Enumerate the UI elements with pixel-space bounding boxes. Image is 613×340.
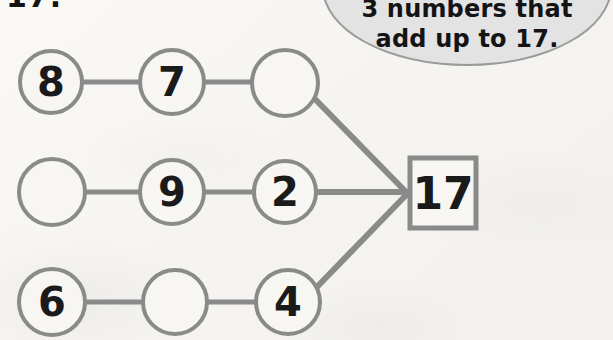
chain-row-1: 9 2 (19, 159, 316, 225)
node-circle-r0c2[interactable] (252, 50, 318, 116)
node-value-r1c1: 9 (158, 169, 186, 215)
number-chain-diagram: 8 7 9 2 (0, 0, 613, 340)
node-r0c0[interactable]: 8 (20, 51, 82, 113)
connector-lines (82, 82, 409, 302)
node-r0c1[interactable]: 7 (140, 50, 204, 114)
node-value-r2c2: 4 (274, 279, 302, 325)
node-r1c2[interactable]: 2 (254, 161, 316, 223)
connector-r0-to-target (313, 97, 409, 195)
target-sum-box[interactable]: 17 (410, 158, 476, 228)
node-r2c1[interactable] (143, 270, 207, 334)
chain-row-0: 8 7 (20, 50, 318, 116)
node-r2c2[interactable]: 4 (256, 270, 320, 334)
node-r0c2[interactable] (252, 50, 318, 116)
node-circle-r2c1[interactable] (143, 270, 207, 334)
node-r1c0[interactable] (19, 159, 85, 225)
node-value-r1c2: 2 (271, 169, 299, 215)
chain-row-2: 6 4 (19, 269, 320, 335)
node-r2c0[interactable]: 6 (19, 269, 85, 335)
node-r1c1[interactable]: 9 (140, 160, 204, 224)
target-box-value: 17 (412, 168, 473, 219)
worksheet-page: 17. 3 numbers that add up to 17. (0, 0, 613, 340)
node-circle-r1c0[interactable] (19, 159, 85, 225)
connector-r2-to-target (315, 192, 409, 289)
node-value-r0c1: 7 (158, 59, 186, 105)
node-value-r0c0: 8 (37, 59, 65, 105)
node-value-r2c0: 6 (38, 279, 66, 325)
